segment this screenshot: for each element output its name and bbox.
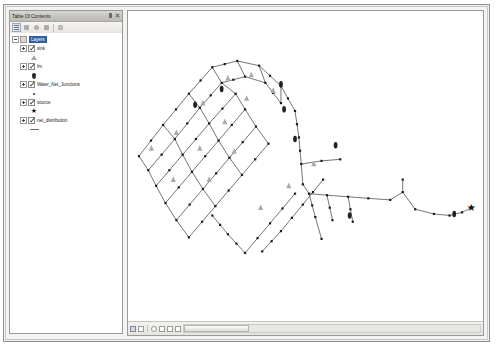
tree-item-label: Layers	[29, 36, 47, 43]
tree-item-water-net-junctions[interactable]: Water_Net_Junctions	[10, 80, 122, 89]
layer-visibility-checkbox[interactable]	[28, 45, 35, 52]
expander-icon[interactable]	[20, 81, 27, 88]
source-marker: ★	[467, 202, 476, 213]
scrollbar-thumb[interactable]	[184, 325, 249, 332]
layer-visibility-checkbox[interactable]	[28, 117, 35, 124]
source-icon	[24, 25, 29, 30]
symbol-box	[28, 93, 40, 95]
horizontal-scrollbar[interactable]	[183, 324, 481, 333]
table-of-contents-panel: Table Of Contents	[9, 10, 123, 334]
close-icon[interactable]	[115, 13, 120, 18]
network-lines	[139, 61, 471, 253]
symbol-box	[28, 73, 40, 79]
symbol-box	[28, 129, 40, 130]
app-root: Table Of Contents	[0, 0, 496, 349]
expander-icon[interactable]	[12, 36, 19, 43]
zoom-whole-page-button[interactable]	[167, 326, 173, 332]
map-bottom-bar	[128, 321, 483, 335]
dataframe-icon	[20, 36, 27, 43]
diamond-icon	[32, 73, 36, 79]
map-canvas[interactable]: ★	[128, 11, 483, 321]
line-icon	[30, 129, 39, 130]
list-by-selection-button[interactable]	[42, 23, 51, 32]
selection-icon	[44, 25, 49, 30]
expander-icon[interactable]	[20, 63, 27, 70]
refresh-view-button[interactable]	[151, 326, 157, 332]
toc-titlebar-buttons	[108, 13, 120, 18]
symbol-box	[28, 55, 40, 60]
page-fixed-zoom-in-button[interactable]	[175, 326, 181, 332]
list-by-drawing-order-button[interactable]	[12, 23, 21, 32]
network-map-graphic: ★	[128, 11, 483, 317]
legend-symbol-fm	[10, 71, 122, 80]
expander-icon[interactable]	[20, 45, 27, 52]
expander-icon[interactable]	[20, 99, 27, 106]
layer-visibility-checkbox[interactable]	[28, 99, 35, 106]
application-window: Table Of Contents	[3, 4, 490, 342]
toc-options-button[interactable]	[56, 23, 65, 32]
tree-item-sink[interactable]: sink	[10, 44, 122, 53]
tree-item-label: sink	[37, 45, 45, 52]
tree-item-layers[interactable]: Layers	[10, 35, 122, 44]
expander-icon[interactable]	[20, 117, 27, 124]
tree-item-source[interactable]: source	[10, 98, 122, 107]
legend-symbol-sink	[10, 53, 122, 62]
toc-title: Table Of Contents	[12, 12, 50, 20]
view-buttons	[128, 325, 181, 332]
tree-item-label: fm	[37, 63, 42, 70]
application-window-client: Table Of Contents	[5, 6, 488, 340]
legend-symbol-net-distribution	[10, 125, 122, 134]
visibility-icon	[34, 25, 39, 30]
view-separator	[147, 325, 148, 332]
pause-drawing-button[interactable]	[159, 326, 165, 332]
sink-markers	[149, 72, 316, 210]
star-icon: ★	[31, 108, 37, 115]
list-by-visibility-button[interactable]	[32, 23, 41, 32]
drawing-order-icon	[14, 25, 19, 30]
toc-titlebar[interactable]: Table Of Contents	[10, 11, 122, 22]
toolbar-separator	[53, 24, 54, 32]
valve-markers	[193, 81, 456, 219]
dot-icon	[33, 93, 35, 95]
list-by-source-button[interactable]	[22, 23, 31, 32]
layer-visibility-checkbox[interactable]	[28, 63, 35, 70]
tree-item-label: net_distribution	[37, 117, 67, 124]
svg-text:★: ★	[467, 202, 476, 213]
layer-visibility-checkbox[interactable]	[28, 81, 35, 88]
tree-item-label: source	[37, 99, 51, 106]
tree-item-net-distribution[interactable]: net_distribution	[10, 116, 122, 125]
layout-view-button[interactable]	[138, 326, 144, 332]
symbol-box: ★	[28, 108, 40, 115]
legend-symbol-source: ★	[10, 107, 122, 116]
toc-tree: Layers sink fm	[10, 33, 122, 333]
tree-item-label: Water_Net_Junctions	[37, 81, 80, 88]
triangle-icon	[31, 55, 37, 60]
pin-icon[interactable]	[108, 13, 113, 18]
network-nodes	[138, 60, 473, 254]
map-frame: ★	[127, 10, 484, 336]
legend-symbol-water-net-junctions	[10, 89, 122, 98]
data-view-button[interactable]	[130, 326, 136, 332]
tree-item-fm[interactable]: fm	[10, 62, 122, 71]
options-icon	[58, 25, 63, 30]
